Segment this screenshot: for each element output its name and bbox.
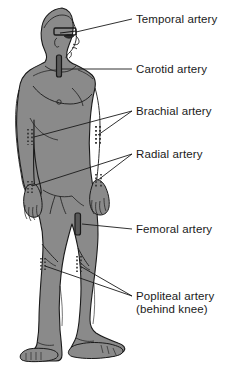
label-temporal-artery: Temporal artery <box>136 13 217 26</box>
label-brachial-artery: Brachial artery <box>136 105 212 118</box>
leader-temporal <box>76 19 132 32</box>
pulse-marker-femoral <box>75 213 81 235</box>
label-carotid-artery-text: Carotid artery <box>136 63 207 75</box>
label-radial-artery-text: Radial artery <box>136 148 203 160</box>
label-popliteal-artery: Popliteal artery (behind knee) <box>136 290 214 316</box>
label-carotid-artery: Carotid artery <box>136 63 207 76</box>
label-radial-artery: Radial artery <box>136 148 203 161</box>
pulse-marker-carotid <box>57 55 62 77</box>
label-popliteal-artery-subtext: (behind knee) <box>136 303 214 316</box>
label-brachial-artery-text: Brachial artery <box>136 105 212 117</box>
label-temporal-artery-text: Temporal artery <box>136 13 217 25</box>
anatomical-diagram: Temporal artery Carotid artery Brachial … <box>0 0 234 376</box>
label-femoral-artery: Femoral artery <box>136 223 212 236</box>
leader-brachial-right <box>98 111 132 135</box>
leader-radial-right <box>98 154 132 180</box>
body-illustration <box>0 0 234 376</box>
label-femoral-artery-text: Femoral artery <box>136 223 212 235</box>
label-popliteal-artery-text: Popliteal artery <box>136 290 214 302</box>
